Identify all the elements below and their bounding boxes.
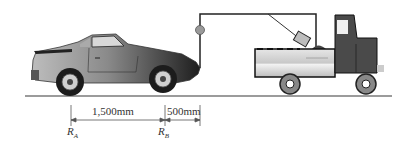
truck-bed: [255, 49, 335, 77]
dimension-rb-hook: 500mm: [167, 105, 201, 117]
pulley-icon: [196, 26, 205, 35]
car: [31, 34, 200, 96]
dimension-ra-rb: 1,500mm: [92, 105, 134, 117]
tow-diagram: [0, 0, 413, 149]
reaction-label-rb: RB: [158, 125, 169, 140]
reaction-label-ra: RA: [67, 125, 78, 140]
tow-truck: [255, 15, 384, 94]
